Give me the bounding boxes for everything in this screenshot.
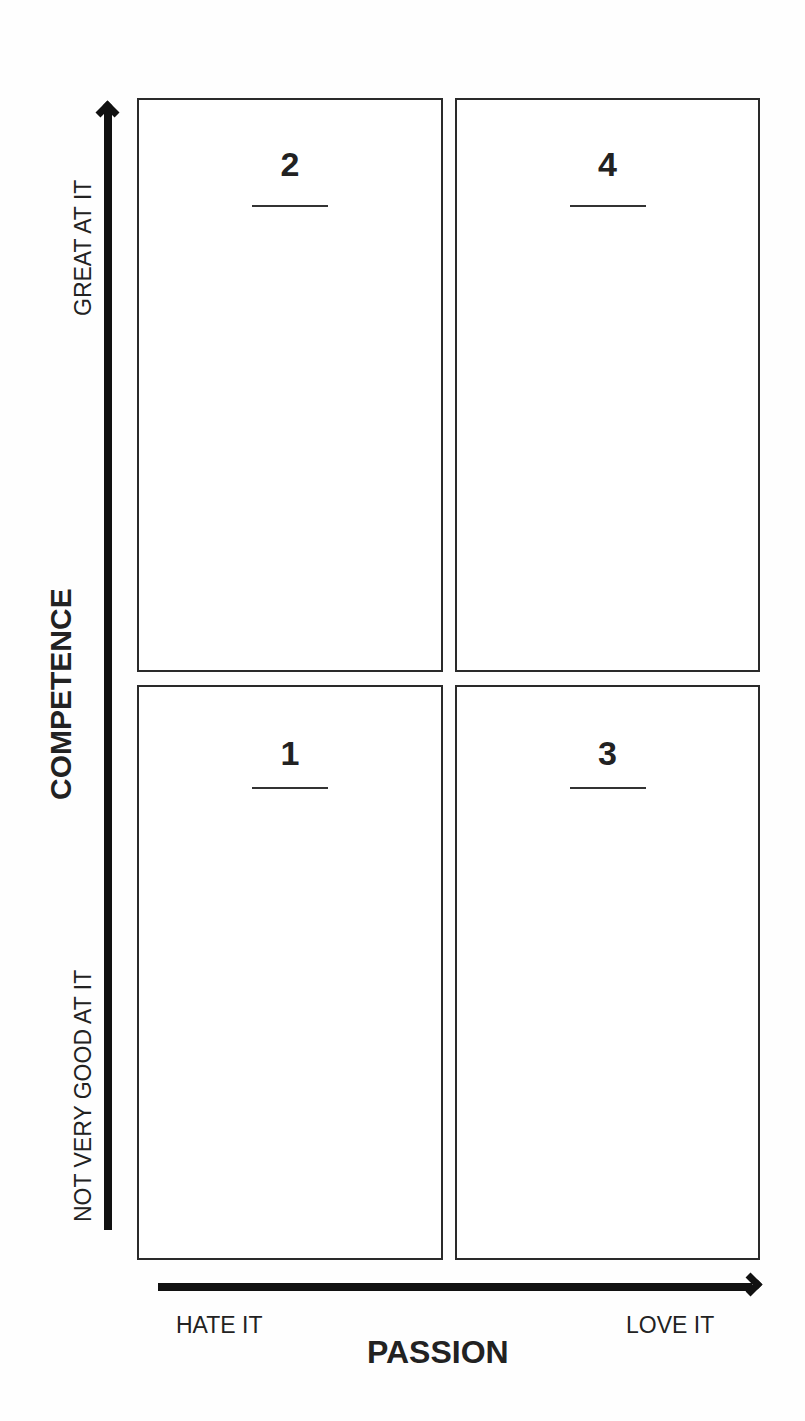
quadrant-bottom-right: 3: [455, 685, 760, 1260]
x-axis-arrow: [158, 1283, 752, 1291]
x-axis-low-label: HATE IT: [176, 1312, 262, 1339]
x-axis-high-label: LOVE IT: [626, 1312, 714, 1339]
y-axis-title: COMPETENCE: [44, 588, 78, 800]
quadrant-top-left: 2: [137, 98, 443, 672]
answer-line: [252, 787, 328, 789]
answer-line: [570, 787, 646, 789]
answer-line: [570, 205, 646, 207]
y-axis-high-label: GREAT AT IT: [70, 180, 97, 316]
arrow-up-icon: [95, 100, 119, 124]
quadrant-number: 2: [139, 144, 441, 184]
quadrant-number: 4: [457, 144, 758, 184]
answer-line: [252, 205, 328, 207]
quadrant-number: 1: [139, 733, 441, 773]
quadrant-top-right: 4: [455, 98, 760, 672]
x-axis-title: PASSION: [367, 1334, 509, 1371]
y-axis-low-label: NOT VERY GOOD AT IT: [70, 970, 97, 1222]
quadrant-number: 3: [457, 733, 758, 773]
y-axis-arrow: [104, 108, 112, 1230]
arrow-right-icon: [738, 1272, 762, 1296]
quadrant-bottom-left: 1: [137, 685, 443, 1260]
